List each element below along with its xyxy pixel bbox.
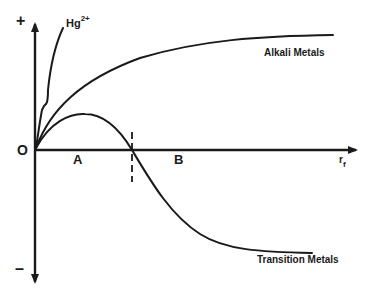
hg-curve-label: Hg2+ <box>66 14 90 29</box>
origin-label: O <box>17 142 28 158</box>
y-axis-negative-label: – <box>15 260 24 277</box>
diagram-canvas: + – O rf A B Hg2+ Alkali Metals Transiti… <box>0 0 381 292</box>
y-axis-positive-label: + <box>16 12 25 29</box>
x-axis-label: rf <box>339 154 346 169</box>
transition-metals-curve <box>36 114 312 253</box>
region-b-label: B <box>174 152 183 167</box>
svg-text:rf: rf <box>339 154 346 169</box>
alkali-metals-label: Alkali Metals <box>264 47 325 58</box>
region-a-label: A <box>73 152 83 167</box>
svg-text:Hg2+: Hg2+ <box>66 14 90 29</box>
transition-metals-label: Transition Metals <box>257 254 339 265</box>
